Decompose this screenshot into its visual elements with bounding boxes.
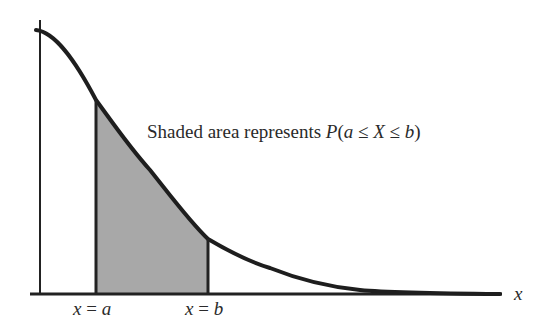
annotation-text: Shaded area represents P(a ≤ X ≤ b)	[147, 121, 421, 143]
label-x-equals-a: x = a	[72, 298, 111, 319]
label-x-equals-b: x = b	[184, 298, 223, 319]
chart-canvas: Shaded area represents P(a ≤ X ≤ b) x = …	[0, 0, 545, 330]
x-axis-label: x	[513, 283, 523, 304]
